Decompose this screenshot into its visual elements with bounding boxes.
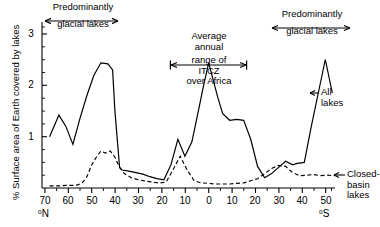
annotation-north-glacial-line-2: glacial lakes bbox=[38, 19, 128, 30]
x-tick-label-20n: 20 bbox=[150, 195, 174, 206]
x-tick-label-40n: 40 bbox=[103, 195, 127, 206]
annotation-south-glacial-line-1: Predominantly bbox=[268, 9, 356, 20]
x-axis-unit-north: oN bbox=[38, 207, 49, 219]
x-tick-label-50n: 50 bbox=[80, 195, 104, 206]
annotation-all-lakes-line-2: lakes bbox=[321, 98, 361, 109]
x-tick-label-10s: 10 bbox=[220, 195, 244, 206]
y-tick-label-1: 1 bbox=[24, 131, 38, 142]
annotation-itcz-line-2: annual bbox=[172, 42, 246, 53]
x-axis-unit-south: oS bbox=[319, 207, 329, 219]
x-tick-label-20s: 20 bbox=[243, 195, 267, 206]
annotation-north-glacial-lakes: Predominantly glacial lakes bbox=[38, 2, 128, 29]
x-tick-label-30s: 30 bbox=[267, 195, 291, 206]
x-tick-label-60n: 60 bbox=[56, 195, 80, 206]
y-major-ticks bbox=[42, 34, 47, 137]
y-tick-label-3: 3 bbox=[24, 28, 38, 39]
annotation-closed-basin-lakes: Closed- basin lakes bbox=[310, 169, 362, 201]
annotation-itcz-range: Average annual range of ITCZ over Africa bbox=[172, 31, 246, 87]
north-letter: N bbox=[42, 208, 49, 219]
annotation-all-lakes-line-1: All bbox=[321, 87, 361, 98]
x-major-ticks bbox=[45, 188, 326, 193]
series-closed-basin-lakes bbox=[50, 151, 335, 186]
annotation-south-glacial-line-2: glacial lakes bbox=[268, 26, 356, 37]
annotation-closed-basin-line-1: Closed- bbox=[347, 169, 362, 180]
x-tick-label-10n: 10 bbox=[173, 195, 197, 206]
y-tick-label-2: 2 bbox=[24, 79, 38, 90]
annotation-itcz-line-5: over Africa bbox=[172, 76, 246, 87]
annotation-north-glacial-line-1: Predominantly bbox=[38, 2, 128, 13]
annotation-itcz-line-1: Average bbox=[172, 31, 246, 42]
annotation-closed-basin-line-3: lakes bbox=[347, 190, 362, 201]
x-tick-label-30n: 30 bbox=[126, 195, 150, 206]
x-tick-label-0: 0 bbox=[197, 195, 221, 206]
annotation-all-lakes: All lakes bbox=[321, 87, 361, 108]
annotation-south-glacial-lakes: Predominantly glacial lakes bbox=[268, 9, 356, 36]
annotation-itcz-line-3: range of bbox=[172, 55, 246, 66]
x-tick-label-70n: 70 bbox=[33, 195, 57, 206]
south-letter: S bbox=[323, 208, 330, 219]
